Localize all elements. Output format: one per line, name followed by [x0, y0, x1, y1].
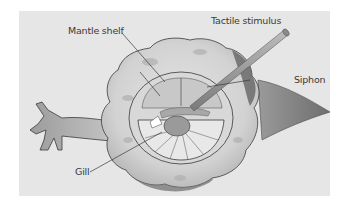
label-gill: Gill	[75, 167, 89, 177]
label-siphon: Siphon	[294, 75, 325, 85]
aplysia-illustration	[0, 0, 350, 207]
label-mantle-shelf: Mantle shelf	[68, 26, 124, 36]
central-organ	[164, 116, 190, 136]
tail-shape	[258, 80, 330, 140]
label-tactile-stimulus: Tactile stimulus	[211, 16, 281, 26]
